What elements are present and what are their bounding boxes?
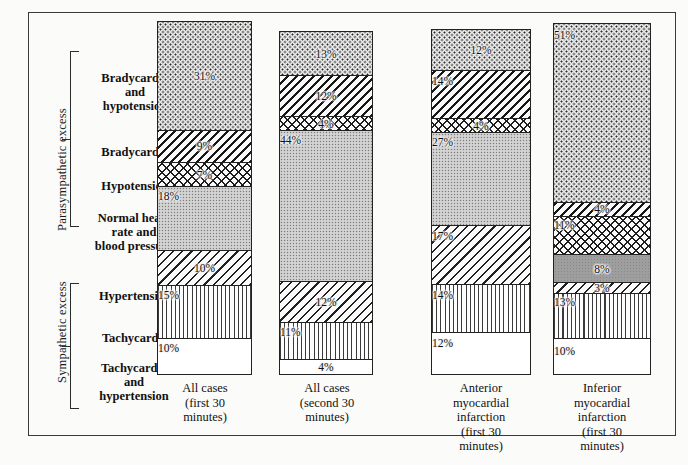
segment-normal[interactable]: 8% — [554, 255, 650, 283]
segment-tachycardia[interactable]: 13% — [554, 294, 650, 340]
segment-value: 3% — [594, 283, 609, 294]
segment-value: 13% — [315, 48, 336, 60]
segment-value: 4% — [594, 203, 609, 215]
segment-value: 14% — [432, 75, 530, 87]
segment-value: 9% — [197, 140, 212, 152]
x-caption-anterior-mi: Anterior myocardial infarction (first 30… — [425, 381, 537, 454]
segment-tachycardia[interactable]: 15% — [158, 286, 251, 339]
segment-tachycardia-and-hypertension[interactable]: 10% — [158, 339, 251, 374]
segment-bradycardia[interactable]: 4% — [554, 203, 650, 217]
group-label-sympathetic: Sympathetic excess — [55, 281, 70, 383]
segment-tachycardia-and-hypertension[interactable]: 4% — [280, 360, 372, 374]
bar-all-cases-second-30[interactable]: 13% 12% 4% 44% 12% 11% 4% — [279, 31, 373, 375]
segment-value: 13% — [554, 296, 650, 308]
segment-value: 27% — [432, 136, 530, 148]
segment-bradycardia-and-hypotension[interactable]: 12% — [432, 30, 530, 71]
bracket-stem — [62, 346, 71, 347]
segment-hypotension[interactable]: 11% — [554, 217, 650, 256]
segment-tachycardia-and-hypertension[interactable]: 10% — [554, 339, 650, 374]
segment-hypertension[interactable]: 12% — [280, 282, 372, 323]
chart-frame: Parasympathetic excess Sympathetic exces… — [28, 12, 676, 436]
bar-anterior-mi-first-30[interactable]: 12% 14% 4% 27% 17% 14% 12% — [431, 29, 531, 375]
segment-value: 12% — [470, 44, 491, 56]
x-caption-all-cases-second-30: All cases (second 30 minutes) — [271, 381, 383, 425]
segment-hypertension[interactable]: 17% — [432, 226, 530, 284]
segment-value: 11% — [280, 326, 372, 338]
segment-hypertension[interactable]: 10% — [158, 251, 251, 286]
segment-value: 4% — [318, 118, 333, 130]
segment-value: 12% — [315, 296, 336, 308]
segment-tachycardia-and-hypertension[interactable]: 12% — [432, 333, 530, 374]
x-caption-inferior-mi: Inferior myocardial infarction (first 30… — [546, 381, 658, 454]
segment-value: 11% — [554, 219, 650, 231]
segment-hypertension[interactable]: 3% — [554, 283, 650, 294]
bracket-stem — [62, 139, 71, 140]
segment-hypotension[interactable]: 7% — [158, 163, 251, 188]
x-caption-all-cases-first-30: All cases (first 30 minutes) — [149, 381, 261, 425]
segment-value: 15% — [158, 289, 251, 301]
segment-normal[interactable]: 44% — [280, 131, 372, 281]
segment-value: 12% — [432, 337, 530, 349]
segment-bradycardia-and-hypotension[interactable]: 51% — [554, 24, 650, 203]
segment-value: 44% — [280, 134, 372, 146]
segment-value: 7% — [197, 169, 212, 181]
segment-normal[interactable]: 18% — [158, 187, 251, 250]
segment-tachycardia[interactable]: 14% — [432, 285, 530, 333]
segment-bradycardia-and-hypotension[interactable]: 13% — [280, 32, 372, 76]
group-label-parasympathetic: Parasympathetic excess — [55, 108, 70, 231]
segment-value: 4% — [473, 120, 488, 132]
segment-normal[interactable]: 27% — [432, 133, 530, 226]
segment-tachycardia[interactable]: 11% — [280, 323, 372, 361]
segment-value: 10% — [554, 345, 650, 357]
segment-value: 14% — [432, 289, 530, 301]
segment-bradycardia-and-hypotension[interactable]: 31% — [158, 22, 251, 131]
bar-all-cases-first-30[interactable]: 31% 9% 7% 18% 10% 15% 10% — [157, 21, 252, 375]
bar-inferior-mi-first-30[interactable]: 51% 4% 11% 8% 3% 13% 10% — [553, 23, 651, 375]
segment-hypotension[interactable]: 4% — [432, 119, 530, 133]
segment-value: 18% — [158, 190, 251, 202]
segment-value: 4% — [318, 361, 333, 373]
segment-value: 12% — [315, 90, 336, 102]
segment-hypotension[interactable]: 4% — [280, 117, 372, 131]
segment-value: 31% — [194, 70, 215, 82]
segment-value: 51% — [554, 29, 650, 41]
segment-value: 10% — [158, 342, 251, 354]
segment-bradycardia[interactable]: 12% — [280, 76, 372, 117]
segment-value: 8% — [594, 263, 609, 275]
segment-value: 10% — [194, 262, 215, 274]
chart-page: Parasympathetic excess Sympathetic exces… — [0, 0, 688, 465]
segment-value: 17% — [432, 230, 530, 242]
segment-bradycardia[interactable]: 14% — [432, 71, 530, 119]
bracket-parasympathetic — [70, 51, 79, 227]
segment-bradycardia[interactable]: 9% — [158, 131, 251, 163]
